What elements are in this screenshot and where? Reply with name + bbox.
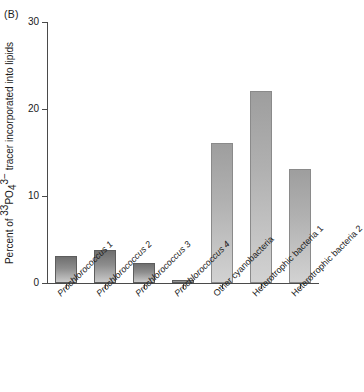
y-axis-tick-label: 20 xyxy=(28,104,39,114)
y-axis-tick xyxy=(42,196,47,197)
y-axis-tick-label: 30 xyxy=(28,17,39,27)
bar xyxy=(289,169,311,283)
y-axis-title-element: PO xyxy=(4,190,15,204)
y-axis-tick xyxy=(42,109,47,110)
y-axis-title-isotope: 33 xyxy=(0,205,10,216)
panel-label: (B) xyxy=(4,8,19,20)
y-axis-tick xyxy=(42,22,47,23)
y-axis-tick xyxy=(42,283,47,284)
y-axis-title-prefix: Percent of xyxy=(4,216,15,264)
y-axis-title: Percent of 33PO43− tracer incorporated i… xyxy=(0,42,17,264)
y-axis-title-subscript: 4 xyxy=(7,185,18,191)
y-axis-tick-label: 10 xyxy=(28,191,39,201)
y-axis-title-container: Percent of 33PO43− tracer incorporated i… xyxy=(0,22,18,284)
y-axis-title-suffix: tracer incorporated into lipids xyxy=(4,42,15,173)
y-axis-line xyxy=(47,22,48,284)
y-axis-title-charge: 3− xyxy=(0,173,10,184)
y-axis-tick-label: 0 xyxy=(33,278,39,288)
